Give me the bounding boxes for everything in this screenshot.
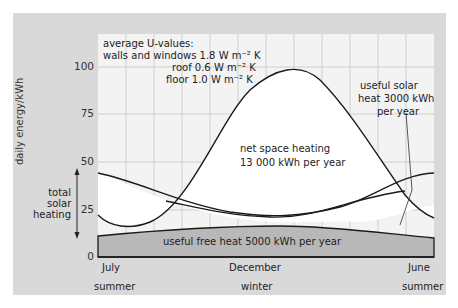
x-label-december: December: [229, 262, 281, 274]
x-label-july: July: [102, 262, 120, 274]
u-value-walls: walls and windows 1.8 W m⁻² K: [103, 50, 261, 62]
y-tick-25: 25: [72, 203, 94, 215]
total-solar-label-3: heating: [30, 209, 71, 221]
free-heat-label: useful free heat 5000 kWh per year: [163, 236, 341, 248]
season-label-summer-right: summer: [402, 281, 443, 293]
u-values-title: average U-values:: [103, 38, 194, 50]
season-label-summer-left: summer: [94, 281, 135, 293]
u-value-roof: roof 0.6 W m⁻² K: [172, 62, 256, 74]
useful-solar-label-1: useful solar: [360, 80, 418, 92]
useful-solar-label-3: per year: [377, 106, 419, 118]
y-tick-100: 100: [72, 60, 94, 72]
y-tick-50: 50: [72, 155, 94, 167]
net-space-heating-value: 13 000 kWh per year: [240, 157, 345, 169]
season-label-winter: winter: [241, 281, 272, 293]
u-value-floor: floor 1.0 W m⁻² K: [166, 74, 253, 86]
y-tick-0: 0: [72, 250, 94, 262]
y-tick-75: 75: [72, 107, 94, 119]
net-space-heating-label: net space heating: [240, 143, 330, 155]
y-axis-label: daily energy/kWh: [14, 78, 25, 165]
x-label-june: June: [408, 262, 430, 274]
useful-solar-label-2: heat 3000 kWh: [358, 93, 434, 105]
